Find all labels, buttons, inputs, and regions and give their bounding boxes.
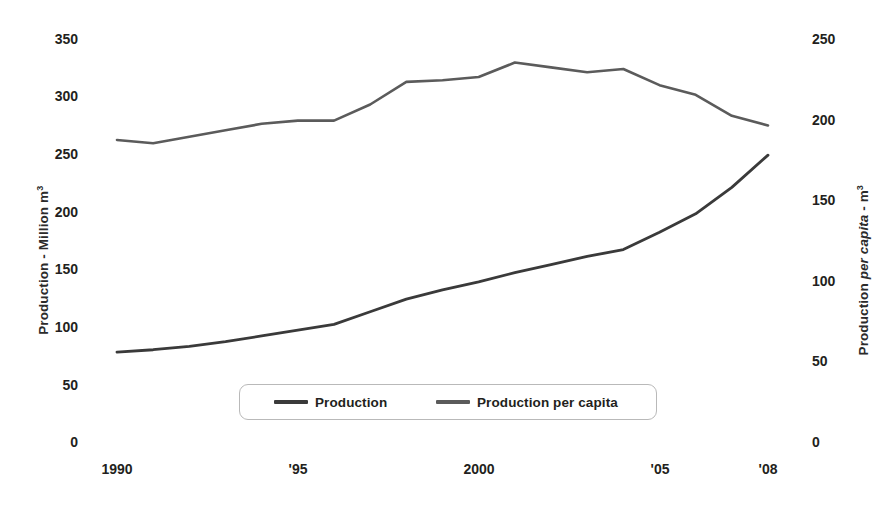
chart-figure: Production - Million m3 Production per c… xyxy=(0,0,881,519)
line-production-per-capita xyxy=(117,63,768,144)
legend-label-production: Production xyxy=(315,395,387,410)
line-production xyxy=(117,155,768,352)
legend-swatch-production-per-capita xyxy=(436,400,470,404)
plot-area xyxy=(0,0,881,519)
legend-item-production-per-capita: Production per capita xyxy=(436,393,618,411)
legend-item-production: Production xyxy=(274,393,387,411)
legend-label-production-per-capita: Production per capita xyxy=(477,395,618,410)
legend-swatch-production xyxy=(274,400,308,404)
chart-legend: Production Production per capita xyxy=(239,384,657,420)
